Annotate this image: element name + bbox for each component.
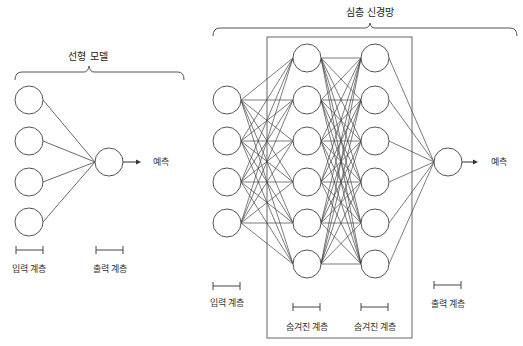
hidden-node	[361, 168, 389, 196]
hidden-node	[293, 209, 321, 237]
hidden-node	[293, 168, 321, 196]
output-node	[434, 148, 462, 176]
arrow-head-icon	[136, 160, 141, 165]
deep-network-connections	[241, 58, 434, 264]
input-node	[15, 208, 43, 236]
linear-model-title: 선형 모델	[68, 51, 107, 62]
hidden-node	[293, 44, 321, 72]
connection-line	[43, 141, 95, 162]
input-node	[15, 168, 43, 196]
linear-input-layer-scale	[16, 246, 43, 254]
hidden-layer-2-scale	[361, 303, 388, 311]
hidden-layer-2-label: 숨겨진 계층	[354, 321, 397, 332]
input-node	[213, 168, 241, 196]
linear-input-layer-label: 입력 계층	[12, 263, 47, 274]
hidden-node	[361, 127, 389, 155]
hidden-node	[361, 250, 389, 278]
hidden-node	[293, 127, 321, 155]
input-node	[213, 127, 241, 155]
input-node	[15, 127, 43, 155]
connection-line	[43, 162, 95, 222]
hidden-node	[361, 86, 389, 114]
deep-output-layer-scale	[434, 281, 461, 289]
deep-network-nodes	[213, 44, 462, 278]
deep-network: 심층 신경망 예측 입력 계층 숨겨진 계층 숨겨진 계층 출력 계층	[210, 6, 517, 338]
deep-output-layer-label: 출력 계층	[431, 298, 466, 309]
hidden-node	[293, 250, 321, 278]
input-node	[213, 86, 241, 114]
hidden-layer-1-label: 숨겨진 계층	[286, 321, 329, 332]
connection-line	[43, 100, 95, 162]
linear-prediction-label: 예측	[153, 157, 169, 167]
linear-model-nodes	[15, 86, 123, 236]
deep-network-brace	[213, 23, 517, 36]
linear-model-connections	[43, 100, 95, 222]
arrow-head-icon	[473, 160, 478, 165]
neural-network-diagram: 선형 모델 예측 입력 계층 출력 계층 심층 신경망 예측 입력 계층	[0, 0, 523, 346]
output-node	[95, 148, 123, 176]
hidden-layer-1-scale	[293, 303, 320, 311]
input-node	[213, 209, 241, 237]
linear-output-layer-scale	[96, 246, 123, 254]
deep-prediction-label: 예측	[491, 157, 507, 167]
linear-model-brace	[15, 66, 184, 80]
linear-output-layer-label: 출력 계층	[93, 263, 128, 274]
deep-network-title: 심층 신경망	[346, 6, 394, 18]
deep-input-layer-scale	[213, 282, 240, 290]
linear-model: 선형 모델 예측 입력 계층 출력 계층	[12, 51, 184, 274]
deep-input-layer-label: 입력 계층	[210, 297, 245, 308]
connection-line	[43, 162, 95, 182]
hidden-node	[293, 86, 321, 114]
input-node	[15, 86, 43, 114]
hidden-node	[361, 44, 389, 72]
hidden-node	[361, 209, 389, 237]
